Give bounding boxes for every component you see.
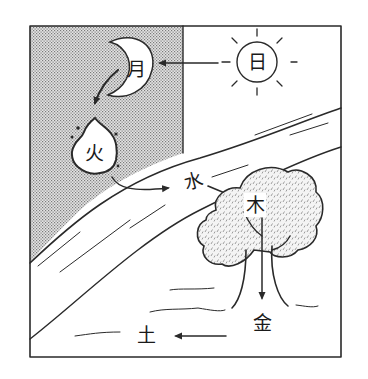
earth-label: 土 bbox=[137, 324, 156, 346]
ember-icon bbox=[71, 136, 74, 139]
water-label: 水 bbox=[181, 168, 205, 194]
five-elements-diagram: 日 月 火 水 木 金 土 bbox=[0, 0, 368, 379]
ember-icon bbox=[114, 132, 117, 135]
sun-label: 日 bbox=[248, 51, 267, 73]
ember-icon bbox=[76, 126, 80, 130]
metal-label: 金 bbox=[253, 312, 272, 334]
ember-icon bbox=[117, 165, 120, 168]
fire-label: 火 bbox=[85, 142, 104, 164]
moon-label: 月 bbox=[127, 58, 146, 80]
ground-lines bbox=[75, 288, 318, 336]
wood-label: 木 bbox=[246, 194, 265, 216]
